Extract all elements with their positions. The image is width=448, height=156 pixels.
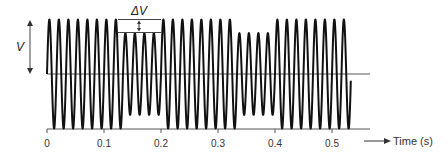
delta-v-label: ΔV bbox=[130, 4, 148, 18]
x-axis-ticks bbox=[47, 129, 332, 133]
x-tick-label: 0.3 bbox=[211, 138, 225, 149]
time-axis-title: Time (s) bbox=[393, 135, 433, 147]
x-tick-label: 0.4 bbox=[268, 138, 282, 149]
x-tick-label: 0.5 bbox=[325, 138, 339, 149]
time-axis-arrow bbox=[364, 138, 391, 144]
x-tick-label: 0.1 bbox=[97, 138, 111, 149]
x-axis-tick-labels: 00.10.20.30.40.5 bbox=[44, 138, 339, 149]
voltage-waveform-chart: 00.10.20.30.40.5 V ΔV Time (s) bbox=[0, 0, 448, 156]
x-tick-label: 0 bbox=[44, 138, 50, 149]
x-tick-label: 0.2 bbox=[154, 138, 168, 149]
v-amplitude-arrow bbox=[27, 20, 33, 74]
v-label: V bbox=[16, 40, 25, 54]
delta-v-bracket bbox=[118, 20, 161, 33]
